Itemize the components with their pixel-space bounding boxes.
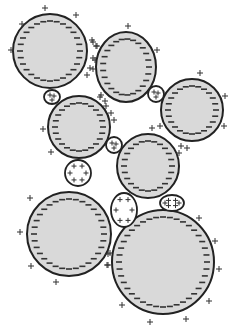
large-negative-particle	[13, 14, 87, 88]
large-negative-particle	[48, 96, 110, 158]
small-positive-particle	[148, 86, 164, 102]
outer-plus-signs	[176, 143, 190, 156]
small-positive-particle	[106, 137, 122, 153]
small-positive-particle	[65, 160, 91, 186]
large-negative-particle	[27, 192, 111, 276]
large-negative-particle	[117, 134, 179, 198]
diagram-canvas	[0, 0, 236, 331]
large-negative-particle	[96, 32, 156, 102]
charged-particles-diagram	[0, 0, 236, 331]
small-positive-particle	[44, 90, 60, 104]
large-negative-particle	[161, 79, 223, 141]
small-positive-particle	[160, 195, 184, 211]
small-positive-particle	[111, 193, 137, 227]
